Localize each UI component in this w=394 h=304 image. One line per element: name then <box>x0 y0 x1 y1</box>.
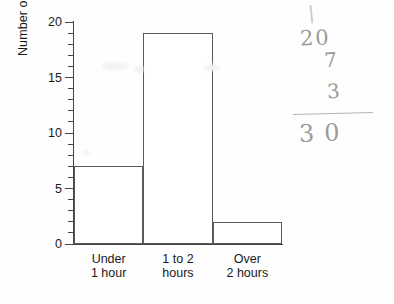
bar <box>143 33 212 244</box>
plot-area <box>74 22 282 244</box>
bar <box>74 166 143 244</box>
handwritten-calculation: \ 20 7 3 30 <box>285 0 394 304</box>
y-tick-major <box>65 133 74 134</box>
handwritten-addend-3: 3 <box>326 79 340 104</box>
handwritten-sum-rule <box>293 112 373 115</box>
y-tick-label: 5 <box>36 183 62 195</box>
y-tick-label: 10 <box>36 127 62 139</box>
scan-smudge <box>204 64 220 71</box>
x-category-label: Under 1 hour <box>74 252 143 280</box>
y-tick-label: 0 <box>36 238 62 250</box>
scan-smudge <box>82 150 90 155</box>
bar-chart-figure: Number of pupils 05101520 Under 1 hour1 … <box>0 0 290 304</box>
y-tick-major <box>65 188 74 189</box>
y-tick-major <box>65 22 74 23</box>
bar <box>213 222 282 244</box>
y-tick-label: 15 <box>36 72 62 84</box>
y-tick-major <box>65 77 74 78</box>
x-category-label: 1 to 2 hours <box>143 252 212 280</box>
y-tick-label: 20 <box>36 16 62 28</box>
y-tick-major <box>65 244 74 245</box>
handwritten-stray-mark: \ <box>306 2 318 27</box>
x-axis-line <box>73 244 283 245</box>
handwritten-total: 30 <box>299 118 350 148</box>
y-axis-title: Number of pupils <box>14 0 32 78</box>
scan-smudge <box>102 62 128 70</box>
handwritten-addend-2: 7 <box>323 48 337 73</box>
x-category-label: Over 2 hours <box>213 252 282 280</box>
scan-smudge <box>134 66 144 73</box>
worksheet-page: Number of pupils 05101520 Under 1 hour1 … <box>0 0 394 304</box>
handwritten-addend-1: 20 <box>300 25 332 50</box>
